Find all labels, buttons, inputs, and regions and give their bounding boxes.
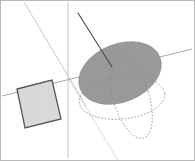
geometry-viewport[interactable] (0, 0, 195, 161)
scene-canvas[interactable] (0, 0, 195, 161)
